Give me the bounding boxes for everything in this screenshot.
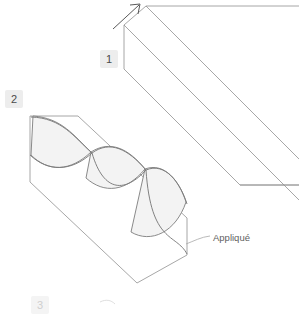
step3-partial-outline: [100, 300, 115, 304]
fold-direction-arrow: [113, 4, 140, 29]
step3-partial-group: [100, 300, 115, 304]
applique-callout-leader: [186, 236, 210, 244]
applique-lobe-2: [86, 146, 145, 188]
step-badge-3[interactable]: 3: [31, 296, 49, 314]
step-badge-1[interactable]: 1: [100, 50, 118, 68]
strip-upper-diagonal: [146, 6, 299, 159]
applique-callout-label: Appliqué: [213, 232, 250, 243]
applique-lobe-1: [31, 116, 91, 167]
step-badge-2[interactable]: 2: [5, 90, 23, 108]
applique-wave-group: [30, 116, 187, 254]
arrow-shaft: [113, 5, 139, 29]
applique-lobe-3: [131, 167, 186, 236]
